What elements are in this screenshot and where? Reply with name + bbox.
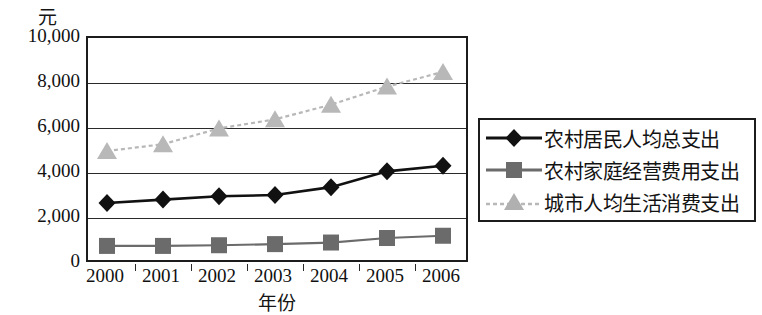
chart-legend: 农村居民人均总支出 农村家庭经营费用支出 城市人均生活消费支出: [478, 118, 756, 222]
data-point-marker: [379, 162, 396, 180]
data-point-marker: [99, 194, 116, 212]
x-axis-tick-labels: 2000 2001 2002 2003 2004 2005 2006: [86, 265, 468, 289]
y-tick-label: 6,000: [2, 116, 80, 135]
y-tick-label: 10,000: [2, 26, 80, 45]
data-point-marker: [435, 157, 452, 175]
data-point-marker: [211, 237, 227, 253]
data-point-marker: [155, 238, 171, 254]
y-tick-label: 2,000: [2, 206, 80, 225]
data-point-marker: [377, 78, 397, 95]
y-tick-label: 8,000: [2, 71, 80, 90]
square-marker-icon: [484, 157, 544, 183]
data-point-marker: [323, 235, 339, 251]
x-axis-title: 年份: [86, 288, 468, 315]
x-tick-label: 2002: [189, 265, 245, 287]
y-tick-label: 4,000: [2, 161, 80, 180]
series-plot: [88, 38, 470, 264]
data-point-marker: [153, 135, 173, 152]
legend-item-label: 城市人均生活消费支出: [544, 188, 739, 217]
chart-root: 元 10,000 8,000 6,000 4,000 2,000 0 2000 …: [0, 0, 762, 315]
data-point-marker: [155, 191, 172, 209]
data-point-marker: [321, 96, 341, 113]
x-tick-label: 2000: [77, 265, 133, 287]
legend-item-label: 农村居民人均总支出: [544, 124, 720, 153]
x-tick-label: 2006: [413, 265, 469, 287]
data-point-marker: [267, 236, 283, 252]
y-tick-label: 0: [2, 251, 80, 270]
data-point-marker: [99, 238, 115, 254]
data-point-marker: [433, 63, 453, 80]
legend-item-rural-total-expenditure[interactable]: 农村居民人均总支出: [480, 122, 754, 154]
data-point-marker: [323, 178, 340, 196]
x-tick-label: 2003: [245, 265, 301, 287]
data-point-marker: [211, 187, 228, 205]
legend-item-label: 农村家庭经营费用支出: [544, 156, 739, 185]
legend-item-rural-household-business-expense[interactable]: 农村家庭经营费用支出: [480, 154, 754, 186]
data-point-marker: [435, 228, 451, 244]
x-tick-label: 2004: [301, 265, 357, 287]
x-tick-label: 2005: [357, 265, 413, 287]
triangle-marker-icon: [484, 189, 544, 215]
data-point-marker: [265, 110, 285, 127]
data-point-marker: [267, 186, 284, 204]
x-tick-label: 2001: [133, 265, 189, 287]
diamond-marker-icon: [484, 125, 544, 151]
y-axis-tick-labels: 10,000 8,000 6,000 4,000 2,000 0: [0, 36, 80, 262]
data-point-marker: [379, 230, 395, 246]
plot-area: [86, 36, 468, 262]
legend-item-urban-living-consumption[interactable]: 城市人均生活消费支出: [480, 186, 754, 218]
